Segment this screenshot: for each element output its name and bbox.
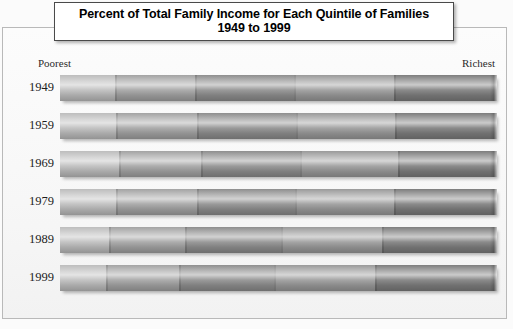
bar-segment-quintile-2: [109, 227, 185, 253]
row-bar-wrapper: [60, 189, 497, 215]
bar-segment-quintile-4: [295, 189, 395, 215]
segment-divider: [398, 151, 400, 177]
chart-title-line-2: 1949 to 1999: [63, 21, 445, 35]
bar-segment-quintile-3: [179, 265, 274, 291]
bar-segment-quintile-2: [116, 113, 197, 139]
bar-segment-quintile-3: [195, 75, 294, 101]
bar-segment-quintile-2: [106, 265, 179, 291]
row-year-label: 1949: [8, 80, 54, 95]
bar-segment-quintile-1: [60, 75, 115, 101]
chart-title-line-1: Percent of Total Family Income for Each …: [63, 7, 445, 21]
segment-divider: [394, 189, 396, 215]
bar-segment-quintile-3: [185, 227, 281, 253]
chart-row: 1949: [0, 73, 505, 111]
row-bar-wrapper: [60, 113, 497, 139]
bar-segment-quintile-3: [201, 151, 300, 177]
bar-segment-quintile-1: [60, 265, 106, 291]
segment-divider: [115, 75, 117, 101]
segment-divider: [382, 227, 384, 253]
bar-segment-quintile-5: [375, 265, 496, 291]
segment-divider: [281, 227, 283, 253]
segment-divider: [116, 113, 118, 139]
segment-divider: [195, 75, 197, 101]
segment-divider: [201, 151, 203, 177]
row-bar-wrapper: [60, 265, 497, 291]
bar-segment-quintile-3: [197, 113, 296, 139]
row-year-label: 1999: [8, 270, 54, 285]
bar-segment-quintile-5: [382, 227, 497, 253]
segment-divider: [395, 113, 397, 139]
bar-segment-quintile-5: [398, 151, 497, 177]
segment-divider: [185, 227, 187, 253]
bar-segment-quintile-1: [60, 113, 116, 139]
bar-segment-quintile-3: [197, 189, 295, 215]
bar-segment-quintile-4: [281, 227, 382, 253]
bar-segment-quintile-4: [300, 151, 398, 177]
bar-segment-quintile-5: [394, 189, 497, 215]
row-year-label: 1979: [8, 194, 54, 209]
chart-row: 1979: [0, 187, 505, 225]
row-year-label: 1989: [8, 232, 54, 247]
bar-segment-quintile-4: [274, 265, 375, 291]
segment-divider: [197, 189, 199, 215]
stacked-bar: [60, 227, 497, 253]
chart-row: 1999: [0, 263, 505, 301]
row-year-label: 1959: [8, 118, 54, 133]
row-bar-wrapper: [60, 151, 497, 177]
segment-divider: [109, 227, 111, 253]
stacked-bar: [60, 189, 497, 215]
segment-divider: [295, 189, 297, 215]
stacked-bar: [60, 113, 497, 139]
segment-divider: [375, 265, 377, 291]
bar-segment-quintile-4: [296, 113, 395, 139]
segment-divider: [274, 265, 276, 291]
segment-divider: [119, 151, 121, 177]
axis-label-poorest: Poorest: [38, 57, 71, 69]
bar-segment-quintile-1: [60, 151, 119, 177]
bar-segment-quintile-2: [116, 189, 196, 215]
chart-row: 1959: [0, 111, 505, 149]
bar-segment-quintile-4: [294, 75, 394, 101]
chart-title-box: Percent of Total Family Income for Each …: [54, 2, 454, 41]
bar-segment-quintile-1: [60, 227, 109, 253]
segment-divider: [394, 75, 396, 101]
chart-rows: 194919591969197919891999: [0, 73, 505, 301]
bar-segment-quintile-5: [395, 113, 497, 139]
chart-page: Percent of Total Family Income for Each …: [0, 0, 513, 329]
chart-row: 1989: [0, 225, 505, 263]
row-year-label: 1969: [8, 156, 54, 171]
segment-divider: [294, 75, 296, 101]
segment-divider: [106, 265, 108, 291]
segment-divider: [116, 189, 118, 215]
stacked-bar: [60, 151, 497, 177]
bar-segment-quintile-2: [119, 151, 202, 177]
segment-divider: [197, 113, 199, 139]
row-bar-wrapper: [60, 75, 497, 101]
chart-row: 1969: [0, 149, 505, 187]
axis-label-richest: Richest: [462, 57, 495, 69]
segment-divider: [300, 151, 302, 177]
bar-segment-quintile-5: [394, 75, 497, 101]
bar-segment-quintile-2: [115, 75, 195, 101]
stacked-bar: [60, 265, 497, 291]
segment-divider: [179, 265, 181, 291]
bar-segment-quintile-1: [60, 189, 116, 215]
row-bar-wrapper: [60, 227, 497, 253]
segment-divider: [296, 113, 298, 139]
stacked-bar: [60, 75, 497, 101]
